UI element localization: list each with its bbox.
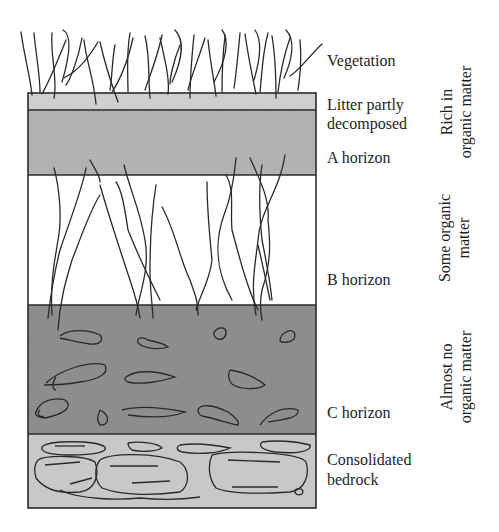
bedrock-label-line1: Consolidated [327,450,411,469]
litter-label-line2: decomposed [327,114,407,133]
bedrock-label-line2: bedrock [327,470,379,489]
organic-zone-some-label: Some organic matter [435,178,473,298]
litter-label-line1: Litter partly [327,95,404,114]
c-horizon-label: C horizon [327,403,391,422]
organic-zone-almost-none-label: Almost no organic matter [437,321,475,433]
a-horizon-label: A horizon [327,148,391,167]
bedrock-layer [28,434,316,508]
vegetation-label: Vegetation [327,51,395,70]
b-horizon-label: B horizon [327,270,391,289]
litter-layer [28,93,316,110]
soil-profile-diagram [0,0,499,532]
organic-zone-rich-label: Rich in organic matter [437,56,475,168]
